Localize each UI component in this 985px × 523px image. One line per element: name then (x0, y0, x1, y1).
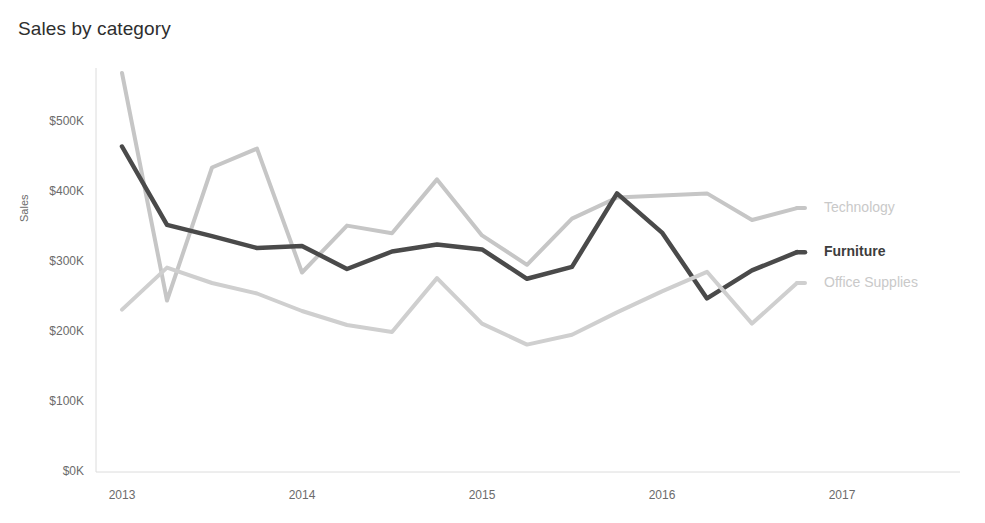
y-axis-tick-label: $0K (28, 464, 84, 478)
series-label-technology[interactable]: Technology (824, 199, 895, 215)
y-axis-tick-label: $300K (28, 254, 84, 268)
y-axis-tick-label: $400K (28, 184, 84, 198)
series-label-office-supplies[interactable]: Office Supplies (824, 274, 918, 290)
x-axis-tick-label: 2013 (92, 488, 152, 502)
chart-canvas: Sales by category Sales $0K$100K$200K$30… (0, 0, 985, 523)
y-axis-tick-label: $100K (28, 394, 84, 408)
x-axis-tick-label: 2014 (272, 488, 332, 502)
plot-area (0, 0, 985, 523)
y-axis-tick-label: $200K (28, 324, 84, 338)
x-axis-tick-label: 2015 (452, 488, 512, 502)
line-series-technology[interactable] (122, 73, 797, 301)
x-axis-tick-label: 2016 (632, 488, 692, 502)
series-layer (122, 73, 805, 345)
y-axis-tick-label: $500K (28, 114, 84, 128)
series-label-furniture[interactable]: Furniture (824, 243, 885, 259)
x-axis-tick-label: 2017 (812, 488, 872, 502)
